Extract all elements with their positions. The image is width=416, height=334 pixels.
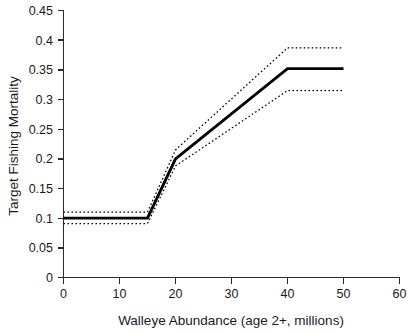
y-tick-label-0: 0: [46, 271, 53, 285]
y-tick-label-0.45: 0.45: [29, 4, 53, 18]
y-tick-label-0.25: 0.25: [29, 123, 53, 137]
x-tick-labels: 0 10 20 30 40 50 60: [60, 287, 406, 301]
chart-canvas: 0 0.05 0.1 0.15 0.2 0.25 0.3 0.35 0.4 0.…: [0, 0, 416, 334]
y-axis-title: Target Fishing Mortality: [6, 76, 21, 216]
series-lower-confidence-line: [64, 91, 344, 224]
x-tick-label-0: 0: [60, 287, 67, 301]
axis-group: [64, 10, 400, 278]
y-tick-label-0.2: 0.2: [36, 152, 53, 166]
y-tick-label-0.15: 0.15: [29, 182, 53, 196]
x-tick-label-10: 10: [113, 287, 127, 301]
data-series-group: [64, 48, 344, 224]
y-tick-label-0.1: 0.1: [36, 212, 53, 226]
x-axis-title: Walleye Abundance (age 2+, millions): [118, 313, 344, 328]
y-tick-label-0.4: 0.4: [36, 34, 53, 48]
series-upper-confidence-line: [64, 48, 344, 212]
y-tick-label-0.05: 0.05: [29, 241, 53, 255]
x-tick-label-30: 30: [225, 287, 239, 301]
y-tick-label-0.35: 0.35: [29, 63, 53, 77]
x-tick-marks: [64, 278, 400, 284]
x-tick-label-60: 60: [393, 287, 407, 301]
x-tick-label-20: 20: [169, 287, 183, 301]
y-tick-label-0.3: 0.3: [36, 93, 53, 107]
y-tick-labels: 0 0.05 0.1 0.15 0.2 0.25 0.3 0.35 0.4 0.…: [29, 4, 53, 285]
chart-figure: 0 0.05 0.1 0.15 0.2 0.25 0.3 0.35 0.4 0.…: [0, 0, 416, 334]
x-tick-label-40: 40: [281, 287, 295, 301]
x-tick-label-50: 50: [337, 287, 351, 301]
